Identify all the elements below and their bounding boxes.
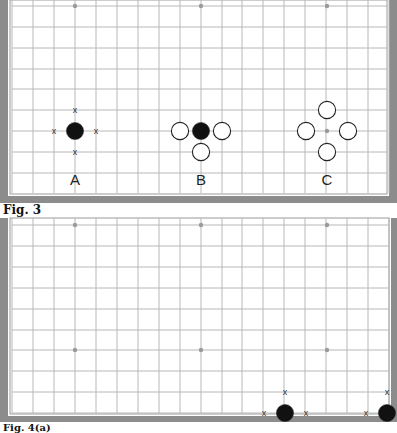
board-frame-right <box>391 218 397 422</box>
star-point-icon <box>325 4 329 8</box>
white-stone-icon <box>213 122 230 139</box>
board-frame-right <box>389 0 397 202</box>
star-point-icon <box>325 129 329 133</box>
board-inner-edge <box>10 0 387 194</box>
star-point-icon <box>199 4 203 8</box>
label-b: B <box>196 171 206 188</box>
label-c: C <box>322 171 333 188</box>
star-point-icon <box>73 348 77 352</box>
x-mark-icon: x <box>73 147 78 157</box>
board-frame-bottom <box>0 416 397 422</box>
white-stone-icon <box>297 122 314 139</box>
x-mark-icon: x <box>94 126 99 136</box>
white-stone-icon <box>171 122 188 139</box>
x-mark-icon: x <box>52 126 57 136</box>
figure-caption-3: Fig. 3 <box>3 203 41 217</box>
figure-caption-4a: Fig. 4(a) <box>3 423 51 433</box>
x-mark-icon: x <box>262 408 267 418</box>
x-mark-icon: x <box>283 387 288 397</box>
white-stone-icon <box>339 122 356 139</box>
black-stone-icon <box>276 404 293 421</box>
fig3-board: xxxx A B C <box>0 0 397 203</box>
black-stone-icon <box>66 122 83 139</box>
star-point-icon <box>325 348 329 352</box>
x-mark-icon: x <box>304 408 309 418</box>
white-stone-icon <box>318 143 335 160</box>
grid-lines <box>12 218 389 413</box>
x-mark-icon: x <box>385 387 390 397</box>
label-a: A <box>70 171 80 188</box>
star-point-icon <box>73 223 77 227</box>
grid-lines <box>12 0 389 193</box>
board-frame-bottom <box>0 196 397 203</box>
white-stone-icon <box>192 143 209 160</box>
board-inner-edge <box>10 218 389 414</box>
star-point-icon <box>73 4 77 8</box>
white-stone-icon <box>318 101 335 118</box>
x-mark-icon: x <box>73 105 78 115</box>
x-mark-icon: x <box>364 408 369 418</box>
star-point-icon <box>199 223 203 227</box>
fig4a-board: xxxxx <box>0 218 397 422</box>
black-stone-icon <box>378 404 395 421</box>
board-frame-left <box>0 0 8 202</box>
star-point-icon <box>325 223 329 227</box>
star-point-icon <box>199 348 203 352</box>
black-stone-icon <box>192 122 209 139</box>
board-frame-left <box>0 218 8 422</box>
